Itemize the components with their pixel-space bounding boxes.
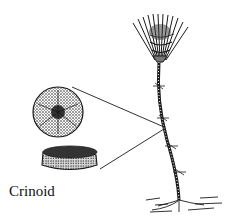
stalk	[153, 62, 186, 200]
stem-columnal-side	[42, 146, 97, 170]
holdfast	[146, 197, 222, 212]
stem-cross-section	[33, 87, 83, 137]
crown-shading	[149, 24, 171, 40]
crinoid-diagram: Crinoid	[0, 0, 239, 224]
figure-label: Crinoid	[9, 183, 55, 200]
